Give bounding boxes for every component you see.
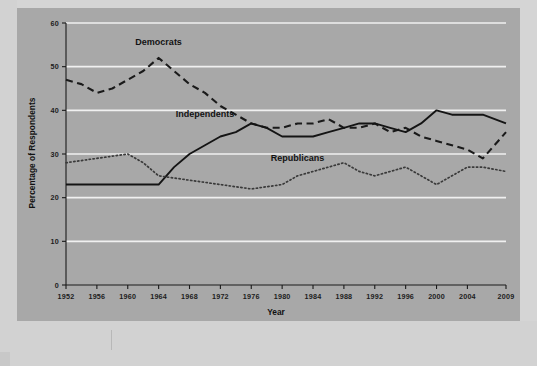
x-tick-label: 1976 — [243, 292, 260, 301]
x-tick-label: 1952 — [58, 292, 75, 301]
series-line-independents — [66, 110, 506, 184]
x-tick-label: 2000 — [428, 292, 445, 301]
page-shadow-left — [0, 0, 17, 366]
y-tick-label: 0 — [55, 281, 59, 290]
x-axis-title: Year — [267, 307, 285, 317]
x-tick-label: 1996 — [397, 292, 414, 301]
x-tick-label: 1956 — [88, 292, 105, 301]
series-annotations: DemocratsIndependentsRepublicans — [135, 37, 324, 163]
x-tick-label: 1992 — [366, 292, 383, 301]
series-label-democrats: Democrats — [135, 37, 182, 47]
series-lines — [66, 58, 506, 189]
x-tick-label: 2009 — [498, 292, 515, 301]
x-tick-label: 1964 — [150, 292, 167, 301]
series-line-democrats — [66, 58, 506, 158]
x-tick-label: 2004 — [459, 292, 476, 301]
y-tick-label: 60 — [51, 19, 59, 28]
y-tick-label: 20 — [51, 193, 59, 202]
page-shadow-bottom — [0, 321, 537, 366]
line-chart: 1952195619601964196819721976198019841988… — [17, 8, 520, 321]
x-tick-label: 1988 — [335, 292, 352, 301]
series-label-independents: Independents — [176, 109, 235, 119]
series-label-republicans: Republicans — [271, 153, 325, 163]
gridlines — [66, 23, 506, 241]
x-tick-label: 1968 — [181, 292, 198, 301]
page-rule-mark — [111, 330, 112, 350]
y-tick-labels: 0102030405060 — [51, 19, 59, 290]
x-tick-label: 1980 — [274, 292, 291, 301]
y-axis-title: Percentage of Respondents — [27, 97, 37, 208]
x-tick-label: 1960 — [119, 292, 136, 301]
x-tick-label: 1984 — [305, 292, 322, 301]
x-tick-labels: 1952195619601964196819721976198019841988… — [58, 292, 515, 301]
y-tick-label: 50 — [51, 62, 59, 71]
y-tick-label: 40 — [51, 106, 59, 115]
chart-figure: 1952195619601964196819721976198019841988… — [17, 8, 520, 321]
y-tick-label: 10 — [51, 237, 59, 246]
chart-screenshot: 1952195619601964196819721976198019841988… — [0, 0, 537, 366]
page-rule-mark-left — [0, 352, 10, 366]
y-tick-label: 30 — [51, 150, 59, 159]
x-tick-label: 1972 — [212, 292, 229, 301]
